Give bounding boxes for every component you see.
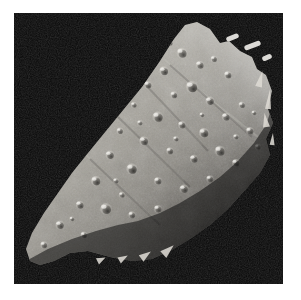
- plate-overall-grain: [14, 13, 283, 284]
- photo-plate: [14, 13, 283, 284]
- asteroid-photograph: [14, 13, 283, 284]
- figure-root: [0, 0, 301, 300]
